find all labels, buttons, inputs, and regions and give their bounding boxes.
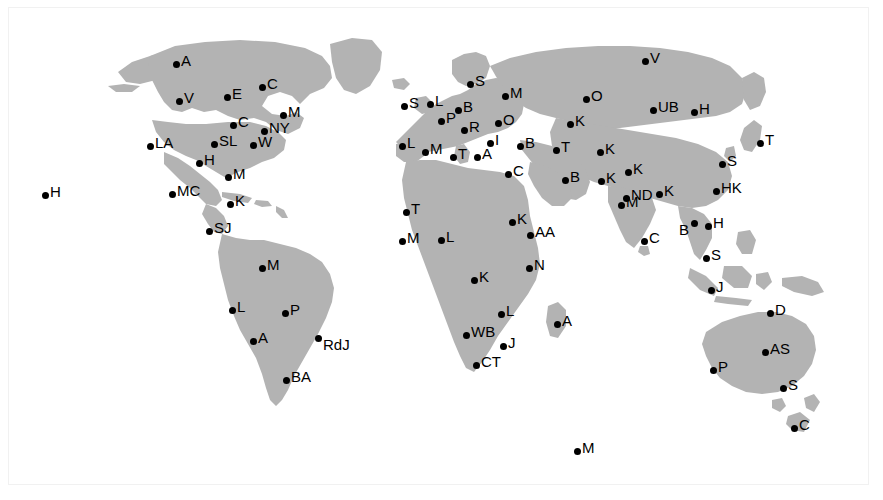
city-marker-label: M	[407, 230, 420, 245]
city-marker-label: C	[238, 114, 249, 129]
map-pin-icon	[438, 118, 445, 125]
landmass-greenland	[330, 38, 382, 94]
city-marker-label: LA	[155, 135, 173, 150]
city-marker-label: C	[799, 417, 810, 432]
map-pin-icon	[399, 238, 406, 245]
city-marker-label: E	[232, 86, 242, 101]
landmass-aleutians	[108, 84, 140, 92]
city-marker-label: I	[495, 132, 499, 147]
landmass-new-zealand-north	[804, 394, 820, 412]
city-marker-label: K	[479, 269, 489, 284]
map-pin-icon	[713, 188, 720, 195]
landmass-australia	[702, 312, 816, 394]
city-marker-label: K	[235, 193, 245, 208]
city-marker-label: L	[237, 299, 245, 314]
city-marker-label: R	[469, 119, 480, 134]
city-marker-label: A	[181, 53, 191, 68]
map-pin-icon	[474, 154, 481, 161]
map-pin-icon	[42, 192, 49, 199]
city-marker-label: K	[606, 170, 616, 185]
map-pin-icon	[147, 143, 154, 150]
city-marker-label: CT	[481, 354, 501, 369]
city-marker-label: AA	[535, 224, 555, 239]
map-pin-icon	[283, 377, 290, 384]
map-pin-icon	[757, 140, 764, 147]
landmass-sulawesi	[756, 272, 772, 290]
map-pin-icon	[567, 121, 574, 128]
city-marker-label: A	[562, 313, 572, 328]
landmass-japan	[740, 120, 762, 152]
map-pin-icon	[691, 220, 698, 227]
city-marker-label: H	[699, 101, 710, 116]
map-pin-icon	[554, 321, 561, 328]
city-marker-label: P	[290, 302, 300, 317]
map-pin-icon	[780, 385, 787, 392]
map-pin-icon	[502, 93, 509, 100]
city-marker-label: B	[525, 135, 535, 150]
landmass-new-guinea	[782, 276, 824, 296]
map-pin-icon	[495, 120, 502, 127]
map-pin-icon	[250, 338, 257, 345]
map-pin-icon	[598, 178, 605, 185]
city-marker-label: S	[409, 95, 419, 110]
map-pin-icon	[471, 277, 478, 284]
map-pin-icon	[498, 311, 505, 318]
map-pin-icon	[505, 171, 512, 178]
map-pin-icon	[583, 96, 590, 103]
map-pin-icon	[719, 161, 726, 168]
city-marker-label: C	[649, 230, 660, 245]
city-marker-label: W	[258, 134, 272, 149]
city-marker-label: J	[716, 279, 724, 294]
landmass-kamchatka	[742, 72, 766, 110]
city-marker-label: O	[591, 88, 603, 103]
map-pin-icon	[259, 265, 266, 272]
landmass-java	[714, 296, 752, 306]
city-marker-label: A	[482, 146, 492, 161]
city-marker-label: B	[463, 99, 473, 114]
city-marker-label: P	[718, 359, 728, 374]
map-pin-icon	[691, 109, 698, 116]
map-pin-icon	[467, 81, 474, 88]
map-pin-icon	[259, 84, 266, 91]
map-pin-icon	[229, 307, 236, 314]
map-pin-icon	[762, 349, 769, 356]
map-pin-icon	[206, 228, 213, 235]
city-marker-label: M	[582, 440, 595, 455]
city-marker-label: HK	[721, 180, 742, 195]
city-marker-label: SJ	[214, 220, 232, 235]
map-pin-icon	[403, 209, 410, 216]
map-pin-icon	[526, 265, 533, 272]
city-marker-label: S	[727, 153, 737, 168]
map-pin-icon	[642, 58, 649, 65]
landmass-tasmania	[772, 398, 786, 412]
map-pin-icon	[597, 149, 604, 156]
city-marker-label: M	[233, 166, 246, 181]
city-marker-label: V	[650, 50, 660, 65]
map-pin-icon	[282, 310, 289, 317]
city-marker-label: T	[411, 201, 420, 216]
map-pin-icon	[791, 425, 798, 432]
map-pin-icon	[227, 201, 234, 208]
landmass-hispaniola	[254, 200, 272, 207]
map-pin-icon	[169, 191, 176, 198]
map-pin-icon	[230, 122, 237, 129]
landmass-philippines	[736, 230, 756, 254]
landmass-africa	[402, 160, 540, 372]
landmass-iceland	[392, 78, 410, 90]
city-marker-label: S	[788, 377, 798, 392]
map-pin-icon	[703, 255, 710, 262]
map-pin-icon	[708, 287, 715, 294]
map-pin-icon	[461, 127, 468, 134]
map-pin-icon	[618, 202, 625, 209]
map-pin-icon	[650, 107, 657, 114]
map-pin-icon	[173, 61, 180, 68]
city-marker-label: M	[510, 85, 523, 100]
city-marker-label: B	[679, 222, 689, 237]
map-pin-icon	[710, 367, 717, 374]
map-pin-icon	[500, 343, 507, 350]
city-marker-label: M	[430, 141, 443, 156]
city-marker-label: WB	[471, 324, 495, 339]
city-marker-label: T	[765, 132, 774, 147]
map-pin-icon	[211, 141, 218, 148]
world-map[interactable]: HAVECMCNYSLWLAHMMCKSJMLPARdJBASSLBPRMOLM…	[0, 0, 883, 500]
